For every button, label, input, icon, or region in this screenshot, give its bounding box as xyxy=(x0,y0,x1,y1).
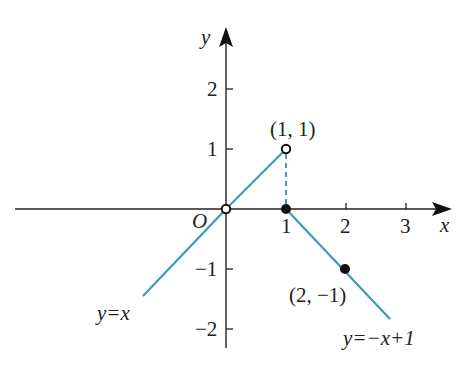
series-label-y-equals-x: y=x xyxy=(95,301,130,325)
piecewise-function-graph: y x O 1 2 3 2 1 −1 −2 (1, 1) (2, −1) y=x… xyxy=(0,0,469,381)
x-tick-label-2: 2 xyxy=(340,214,351,238)
open-point-origin xyxy=(222,205,230,213)
filled-point-1-0 xyxy=(281,204,291,214)
line-y-equals-x xyxy=(143,209,226,296)
point-label-1-1: (1, 1) xyxy=(270,117,316,141)
line-y-equals-x-upper xyxy=(226,149,286,209)
y-tick-label-1: 1 xyxy=(207,137,218,161)
y-axis-label: y xyxy=(199,25,211,49)
x-tick-label-1: 1 xyxy=(281,214,292,238)
filled-point-2-minus-1 xyxy=(340,264,350,274)
y-tick-label-2: 2 xyxy=(207,77,218,101)
origin-label: O xyxy=(192,209,207,233)
x-tick-label-3: 3 xyxy=(400,214,411,238)
open-point-1-1 xyxy=(282,145,290,153)
series-label-y-equals-minus-x-plus-1: y=−x+1 xyxy=(341,326,415,350)
x-axis-label: x xyxy=(439,213,450,237)
y-tick-label-minus-2: −2 xyxy=(195,317,217,341)
y-tick-label-minus-1: −1 xyxy=(195,257,217,281)
point-label-2-minus-1: (2, −1) xyxy=(289,283,346,307)
